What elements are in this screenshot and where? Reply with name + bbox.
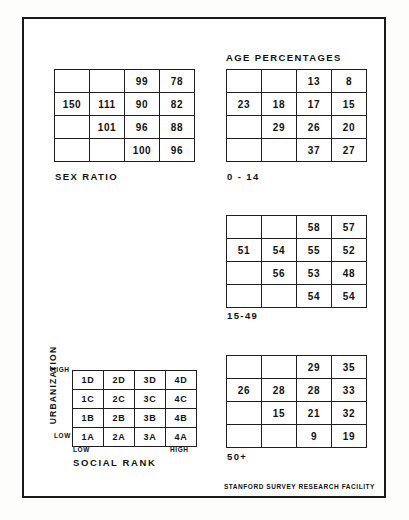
social-rank-high-tick: HIGH [170, 446, 189, 453]
legend-grid: 1D2D3D4D1C2C3C4C1B2B3B4B1A2A3A4A [72, 370, 197, 447]
age-0-14-cell [262, 70, 297, 93]
urbanization-low-tick: LOW [54, 432, 71, 439]
age-50-plus-cell [227, 425, 262, 448]
legend-cell: 1A [73, 428, 104, 447]
sex-ratio-cell: 90 [125, 93, 160, 116]
table-row: 1A2A3A4A [73, 428, 197, 447]
age-15-49-table: 5857515455525653485454 [226, 215, 367, 308]
legend-cell: 4D [166, 371, 197, 390]
urbanization-high-tick: HIGH [51, 366, 70, 373]
legend-cell: 2B [104, 409, 135, 428]
age-0-14-cell: 8 [332, 70, 367, 93]
table-row: 9978 [55, 70, 195, 93]
age-0-14-caption: 0 - 14 [227, 171, 260, 182]
age-0-14-cell: 13 [297, 70, 332, 93]
legend-cell: 2C [104, 390, 135, 409]
age-15-49-cell: 55 [297, 239, 332, 262]
legend-cell: 3A [135, 428, 166, 447]
table-row: 1D2D3D4D [73, 371, 197, 390]
age-15-49-cell: 52 [332, 239, 367, 262]
sex-ratio-caption: SEX RATIO [55, 171, 118, 182]
age-0-14-cell [227, 116, 262, 139]
sex-ratio-cell: 88 [160, 116, 195, 139]
legend-cell: 3D [135, 371, 166, 390]
sex-ratio-cell: 150 [55, 93, 90, 116]
table-row: 5454 [227, 285, 367, 308]
age-50-plus-cell: 15 [262, 402, 297, 425]
table-row: 51545552 [227, 239, 367, 262]
age-0-14-cell: 37 [297, 139, 332, 162]
age-50-plus-cell: 35 [332, 356, 367, 379]
age-15-49-cell: 54 [297, 285, 332, 308]
sex-ratio-cell: 99 [125, 70, 160, 93]
legend-cell: 3B [135, 409, 166, 428]
age-50-plus-cell: 32 [332, 402, 367, 425]
table-row: 152132 [227, 402, 367, 425]
age-50-plus-caption: 50+ [227, 451, 247, 462]
age-50-plus-cell: 19 [332, 425, 367, 448]
age-0-14-cell [227, 70, 262, 93]
age-15-49-cell [227, 262, 262, 285]
sex-ratio-body: 99781501119082101968810096 [55, 70, 195, 162]
age-50-plus-cell [227, 402, 262, 425]
sex-ratio-cell: 96 [160, 139, 195, 162]
sex-ratio-table: 99781501119082101968810096 [54, 69, 195, 162]
social-rank-axis-label: SOCIAL RANK [73, 457, 156, 468]
age-0-14-cell: 17 [297, 93, 332, 116]
age-0-14-cell: 26 [297, 116, 332, 139]
sex-ratio-cell: 82 [160, 93, 195, 116]
age-0-14-cell: 18 [262, 93, 297, 116]
legend-cell: 1B [73, 409, 104, 428]
age-50-plus-cell [262, 425, 297, 448]
sex-ratio-cell [55, 139, 90, 162]
age-15-49-cell [262, 285, 297, 308]
sex-ratio-cell [90, 70, 125, 93]
table-row: 1C2C3C4C [73, 390, 197, 409]
table-row: 3727 [227, 139, 367, 162]
table-row: 919 [227, 425, 367, 448]
sex-ratio-cell [55, 116, 90, 139]
age-50-plus-cell: 28 [262, 379, 297, 402]
age-15-49-cell: 53 [297, 262, 332, 285]
figure-frame: 99781501119082101968810096 SEX RATIO AGE… [22, 17, 386, 498]
age-15-49-cell: 48 [332, 262, 367, 285]
legend-key-block: URBANIZATION HIGH LOW 1D2D3D4D1C2C3C4C1B… [35, 362, 205, 477]
legend-cell: 4C [166, 390, 197, 409]
legend-cell: 1D [73, 371, 104, 390]
table-row: 5857 [227, 216, 367, 239]
age-0-14-cell: 27 [332, 139, 367, 162]
urbanization-axis-label: URBANIZATION [48, 345, 58, 425]
age-15-49-cell [227, 285, 262, 308]
table-row: 2935 [227, 356, 367, 379]
age-15-49-cell: 54 [262, 239, 297, 262]
age-0-14-cell [227, 139, 262, 162]
table-row: 23181715 [227, 93, 367, 116]
age-15-49-cell: 56 [262, 262, 297, 285]
age-15-49-cell [262, 216, 297, 239]
legend-cell: 2A [104, 428, 135, 447]
social-rank-low-tick: LOW [73, 446, 90, 453]
legend-grid-body: 1D2D3D4D1C2C3C4C1B2B3B4B1A2A3A4A [73, 371, 197, 447]
scan-sheet: 99781501119082101968810096 SEX RATIO AGE… [0, 0, 409, 520]
age-15-49-body: 5857515455525653485454 [227, 216, 367, 308]
age-50-plus-cell: 21 [297, 402, 332, 425]
age-50-plus-cell: 33 [332, 379, 367, 402]
table-row: 138 [227, 70, 367, 93]
age-50-plus-cell: 26 [227, 379, 262, 402]
age-0-14-cell: 15 [332, 93, 367, 116]
age-15-49-cell: 54 [332, 285, 367, 308]
age-0-14-cell: 29 [262, 116, 297, 139]
age-15-49-cell [227, 216, 262, 239]
age-0-14-table: 138231817152926203727 [226, 69, 367, 162]
sex-ratio-cell: 100 [125, 139, 160, 162]
table-row: 1019688 [55, 116, 195, 139]
age-15-49-cell: 58 [297, 216, 332, 239]
age-50-plus-cell: 28 [297, 379, 332, 402]
age-15-49-caption: 15-49 [227, 310, 258, 321]
age-15-49-cell: 51 [227, 239, 262, 262]
table-row: 565348 [227, 262, 367, 285]
sex-ratio-cell: 78 [160, 70, 195, 93]
age-15-49-cell: 57 [332, 216, 367, 239]
age-50-plus-body: 293526282833152132919 [227, 356, 367, 448]
footer-credit: STANFORD SURVEY RESEARCH FACILITY [224, 483, 375, 490]
